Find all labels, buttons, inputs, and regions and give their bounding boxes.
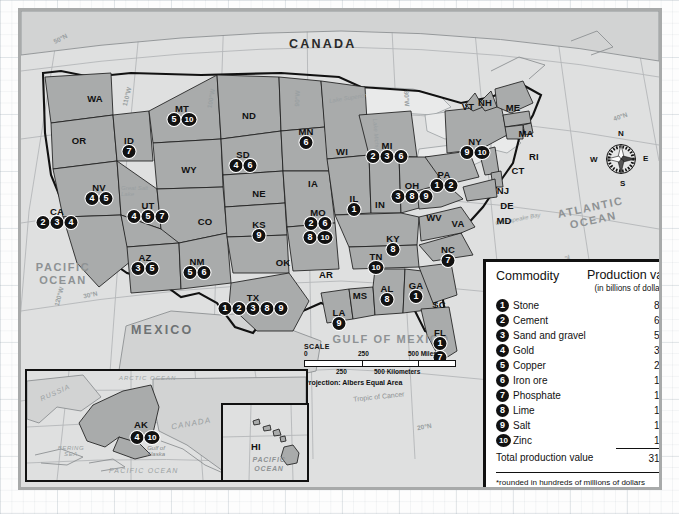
compass-east-label: E — [643, 154, 648, 163]
commodity-dot: 3 — [381, 150, 394, 163]
compass-icon — [599, 137, 643, 181]
legend-header: Commodity Production value (in billions … — [496, 269, 662, 295]
commodity-dots-ks: 9 — [253, 229, 266, 242]
scale-km-500: 500 Kilometers — [374, 368, 420, 375]
legend-header-value: Production value (in billions of dollars… — [587, 269, 662, 295]
commodity-dot: 10 — [318, 231, 333, 244]
legend-dot-cell: 6 — [496, 373, 513, 388]
commodity-dot: 4 — [86, 192, 99, 205]
commodity-dot: 7 — [156, 210, 169, 223]
commodity-dots-oh: 389 — [392, 190, 433, 203]
commodity-dot: 7 — [123, 145, 136, 158]
lake-label-great-salt: Great Salt Lake — [121, 185, 151, 197]
commodity-dot: 1 — [219, 302, 232, 315]
commodity-dot: 9 — [333, 317, 346, 330]
commodity-dot: 2 — [445, 179, 458, 192]
compass-south-label: S — [620, 179, 625, 188]
compass-west-label: W — [590, 155, 598, 164]
commodity-dots-ny: 910 — [461, 146, 490, 159]
commodity-dots-mn: 6 — [300, 136, 313, 149]
legend-commodity-value: 6.3 — [616, 313, 662, 328]
legend-rows: 1Stone8.22Cement6.33Sand and gravel5.34G… — [496, 298, 662, 465]
legend-commodity-name: Gold — [513, 343, 616, 358]
commodity-dot: 6 — [395, 150, 408, 163]
commodity-dots-mi: 236 — [367, 150, 408, 163]
commodity-dot-row: 810 — [304, 231, 333, 244]
legend-dot-cell: 10 — [496, 433, 513, 448]
scale-mile-0: 0 — [304, 350, 308, 357]
legend-commodity-value: 8.2 — [616, 298, 662, 313]
legend-row: 6Iron ore1.6 — [496, 373, 662, 388]
legend-commodity-name: Stone — [513, 298, 616, 313]
commodity-dot: 9 — [253, 229, 266, 242]
commodity-dots-ca: 234 — [37, 216, 78, 229]
commodity-dot: 5 — [146, 262, 159, 275]
legend-commodity-name: Zinc — [513, 433, 616, 448]
projection-label: Projection: Albers Equal Area — [304, 379, 456, 386]
commodity-dot: 8 — [304, 231, 317, 244]
commodity-dots-nc: 7 — [442, 254, 455, 267]
commodity-dot-row: 26 — [305, 217, 332, 230]
legend-row: 8Lime1.2 — [496, 403, 662, 418]
commodity-dots-sd: 46 — [230, 159, 257, 172]
legend-dot-cell: 4 — [496, 343, 513, 358]
legend-total-value: 31.6 — [616, 448, 662, 465]
legend-row: 4Gold3.0 — [496, 343, 662, 358]
commodity-dot: 5 — [184, 266, 197, 279]
commodity-dots-ak: 4 10 — [131, 431, 160, 444]
commodity-dot: 3 — [51, 216, 64, 229]
commodity-dot: 2 — [37, 216, 50, 229]
commodity-dot: 6 — [496, 374, 509, 387]
commodity-dot: 10 — [145, 431, 160, 444]
commodity-dot: 2 — [233, 302, 246, 315]
commodity-dot: 1 — [410, 290, 423, 303]
legend-commodity-value: 1.6 — [616, 373, 662, 388]
commodity-dot: 8 — [496, 404, 509, 417]
legend-table: 1Stone8.22Cement6.33Sand and gravel5.34G… — [496, 298, 662, 465]
commodity-dot: 5 — [168, 113, 181, 126]
commodity-dots-mt: 510 — [168, 113, 197, 126]
commodity-dot: 7 — [496, 389, 509, 402]
legend-header-value-main: Production value — [587, 268, 662, 282]
legend-header-commodity: Commodity — [496, 269, 559, 283]
legend-commodity-value: 1.1 — [616, 418, 662, 433]
commodity-dots-nm: 56 — [184, 266, 211, 279]
commodity-dot: 3 — [132, 262, 145, 275]
commodity-dot: 2 — [496, 314, 509, 327]
legend-row: 2Cement6.3 — [496, 313, 662, 328]
legend-row: 3Sand and gravel5.3 — [496, 328, 662, 343]
legend-commodity-name: Iron ore — [513, 373, 616, 388]
commodity-dot: 8 — [381, 293, 394, 306]
ocean-label-line1: PACIFIC — [36, 261, 90, 273]
commodity-dot: 7 — [442, 254, 455, 267]
compass-rose: N E S W — [599, 137, 643, 181]
commodity-dot: 4 — [128, 210, 141, 223]
inset-hawaii: HI PACIFIC OCEAN — [221, 403, 309, 482]
legend-commodity-value: 1.2 — [616, 388, 662, 403]
commodity-dot: 3 — [392, 190, 405, 203]
commodity-dot: 6 — [198, 266, 211, 279]
commodity-dot: 4 — [230, 159, 243, 172]
inset-label-pacific-ocean-hi: PACIFIC OCEAN — [245, 455, 293, 473]
commodity-dots-il: 1 — [348, 203, 361, 216]
commodity-dot: 1 — [348, 203, 361, 216]
ocean-label-pacific: PACIFIC OCEAN — [21, 261, 105, 287]
commodity-dots-tx: 12389 — [219, 302, 288, 315]
legend-commodity-value: 1.2 — [616, 403, 662, 418]
commodity-dots-id: 7 — [123, 145, 136, 158]
legend-row: 9Salt1.1 — [496, 418, 662, 433]
legend-commodity-name: Copper — [513, 358, 616, 373]
legend-commodity-value: 1.0 — [616, 433, 662, 448]
commodity-dot: 10 — [496, 434, 511, 447]
scale-km-labels: 0 250 500 Kilometers — [304, 368, 456, 377]
inset-label-bering-sea: BERING SEA — [57, 445, 85, 457]
commodity-dot: 10 — [182, 113, 197, 126]
legend-row: 10Zinc1.0 — [496, 433, 662, 448]
legend-row: 7Phosphate1.2 — [496, 388, 662, 403]
commodity-dot: 4 — [131, 431, 144, 444]
legend-row: 1Stone8.2 — [496, 298, 662, 313]
ocean-line1: PACIFIC — [252, 456, 285, 463]
commodity-dot: 10 — [475, 146, 490, 159]
scale-km-250: 250 — [336, 368, 347, 375]
commodity-dots-tn: 10 — [369, 261, 384, 274]
